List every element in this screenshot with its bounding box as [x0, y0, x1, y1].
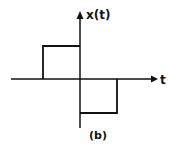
positive-pulse: [43, 46, 80, 79]
t-axis-arrow-icon: [151, 76, 158, 83]
y-axis-label: x(t): [86, 8, 110, 22]
negative-pulse: [80, 79, 117, 113]
signal-diagram: x(t) t (b): [0, 0, 169, 146]
caption: (b): [89, 129, 107, 142]
x-axis-label: t: [160, 73, 166, 87]
x-axis-arrow-icon: [77, 11, 84, 19]
